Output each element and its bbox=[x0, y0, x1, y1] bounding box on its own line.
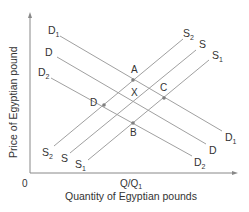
x-tick-label: Q/Q1 bbox=[120, 178, 142, 190]
point-a-label: A bbox=[131, 64, 138, 75]
point-b-label: B bbox=[130, 127, 137, 138]
curve-label-s2-end: S2 bbox=[183, 27, 194, 41]
y-axis-arrow-icon bbox=[28, 12, 32, 18]
y-axis-label: Price of Egyptian pound bbox=[7, 46, 19, 158]
curve-label-s2: S2 bbox=[42, 146, 53, 160]
x-axis-arrow-icon bbox=[232, 171, 238, 175]
point-c-label: C bbox=[160, 82, 167, 93]
point-b-marker bbox=[131, 121, 135, 125]
origin-label: 0 bbox=[22, 178, 28, 189]
point-d-marker bbox=[102, 103, 106, 107]
supply-demand-diagram: AXCDB D1DD2D1DD2S2SS1S2SS1 Price of Egyp… bbox=[0, 0, 249, 212]
curve-label-s: S bbox=[61, 152, 68, 164]
supply-curve-s1 bbox=[88, 60, 209, 160]
curve-label-d: D bbox=[45, 46, 53, 58]
point-x-label: X bbox=[131, 87, 138, 98]
x-axis-label: Quantity of Egyptian pounds bbox=[65, 190, 197, 202]
point-a-marker bbox=[131, 78, 135, 82]
curve-label-s1-end: S1 bbox=[212, 49, 223, 63]
curve-label-d2-end: D2 bbox=[194, 156, 206, 170]
curve-label-s1: S1 bbox=[75, 158, 86, 172]
point-c-marker bbox=[162, 96, 166, 100]
curve-label-d-end: D bbox=[209, 144, 217, 156]
curve-label-d1: D1 bbox=[48, 24, 60, 38]
point-d-label: D bbox=[90, 97, 97, 108]
curves bbox=[51, 36, 222, 160]
curve-label-s-end: S bbox=[199, 38, 206, 50]
curve-label-d2: D2 bbox=[38, 66, 50, 80]
curve-label-d1-end: D1 bbox=[225, 131, 237, 145]
